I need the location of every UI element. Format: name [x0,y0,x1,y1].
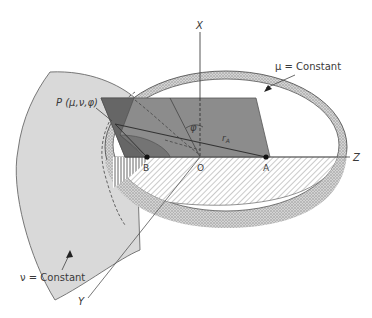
label-y-axis: Y [78,296,85,307]
point-b [144,154,149,159]
label-x-axis: X [195,20,204,31]
label-mu-constant: μ = Constant [275,61,341,72]
label-point-b: B [143,163,149,173]
label-nu-constant: ν = Constant [20,272,85,283]
label-point-a: A [263,163,270,173]
label-point-p: P (μ,ν,φ) [56,97,98,108]
label-z-axis: Z [352,152,361,163]
point-a [263,154,268,159]
prolate-spheroidal-diagram: X Z Y P (μ,ν,φ) B O A φ rA μ = Constant … [0,0,372,318]
label-origin: O [197,163,204,173]
label-phi: φ [190,122,197,133]
